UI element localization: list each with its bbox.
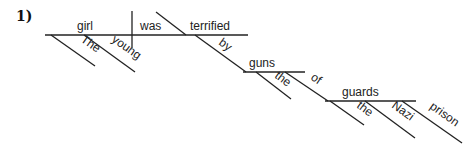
word-guns: guns: [249, 56, 275, 70]
word-predicate-adjective: terrified: [190, 19, 230, 33]
word-guards: guards: [342, 85, 379, 99]
sentence-diagram: 1) girl was terrified The young b: [0, 0, 476, 150]
word-prison: prison: [427, 99, 462, 129]
word-nazi: Nazi: [389, 98, 417, 123]
diagram-canvas: girl was terrified The young by guns the…: [0, 0, 476, 150]
word-by: by: [216, 35, 234, 54]
word-verb: was: [139, 19, 161, 33]
word-of: of: [308, 70, 325, 88]
word-subject: girl: [77, 19, 93, 33]
problem-number: 1): [16, 8, 32, 24]
